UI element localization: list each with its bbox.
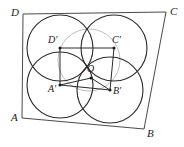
label-O: O xyxy=(87,64,94,74)
label-D: D xyxy=(11,7,19,18)
point-marker-B-prime xyxy=(109,89,112,92)
point-marker-A-prime xyxy=(59,84,62,87)
point-marker-D-prime xyxy=(59,47,62,50)
label-A: A xyxy=(11,112,18,123)
point-marker-O xyxy=(90,77,93,80)
label-A-prime: A′ xyxy=(48,84,56,94)
label-C-prime: C′ xyxy=(112,35,121,45)
label-D-prime: D′ xyxy=(48,35,57,45)
label-B-prime: B′ xyxy=(113,86,121,96)
label-C: C xyxy=(170,6,177,17)
label-B: B xyxy=(147,128,154,139)
geometry-figure: D C A B D′ C′ A′ B′ O xyxy=(0,0,184,147)
point-marker-C-prime xyxy=(113,47,116,50)
